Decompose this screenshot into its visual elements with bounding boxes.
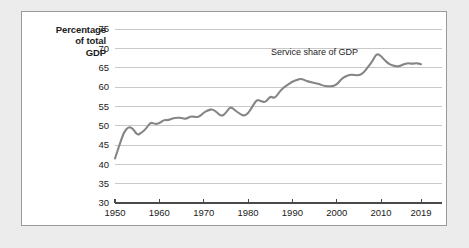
y-tick-label-40: 40 <box>98 159 109 170</box>
chart-annotations: Service share of GDP <box>271 47 358 57</box>
y-tick-label-75: 75 <box>98 23 109 34</box>
axis-lines <box>115 199 442 204</box>
y-tick-label-70: 70 <box>98 43 109 54</box>
y-tick-label-55: 55 <box>98 101 109 112</box>
y-tick-labels: 30354045505560657075 <box>98 23 109 208</box>
x-tick-label-2019: 2019 <box>410 207 431 218</box>
y-tick-label-35: 35 <box>98 178 109 189</box>
x-tick-label-1950: 1950 <box>104 207 125 218</box>
y-tick-label-65: 65 <box>98 62 109 73</box>
figure-card: Percentage of total GDP 3035404550556065… <box>21 11 447 226</box>
chart-plot: 30354045505560657075 1950196019701980199… <box>22 12 448 227</box>
y-tick-label-50: 50 <box>98 120 109 131</box>
annotation-0: Service share of GDP <box>271 47 358 57</box>
y-tick-label-45: 45 <box>98 139 109 150</box>
x-tick-label-1970: 1970 <box>193 207 214 218</box>
x-tick-label-1960: 1960 <box>149 207 170 218</box>
y-tick-label-60: 60 <box>98 81 109 92</box>
x-tick-label-2010: 2010 <box>371 207 392 218</box>
x-tick-label-1990: 1990 <box>282 207 303 218</box>
x-tick-label-1980: 1980 <box>237 207 258 218</box>
x-tick-labels: 19501960197019801990200020102019 <box>104 207 431 218</box>
x-tick-label-2000: 2000 <box>326 207 347 218</box>
chart-stage: Percentage of total GDP 3035404550556065… <box>22 12 448 227</box>
